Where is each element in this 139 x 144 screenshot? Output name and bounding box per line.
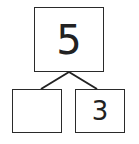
part-box-right: 3 — [75, 89, 125, 133]
whole-box: 5 — [34, 7, 104, 72]
part-box-left[interactable] — [12, 89, 62, 133]
part-value-right: 3 — [92, 96, 109, 126]
whole-value: 5 — [56, 17, 81, 63]
